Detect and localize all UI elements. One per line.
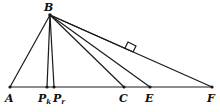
point-C [122, 85, 125, 88]
point-Pr [52, 85, 55, 88]
point-F [210, 85, 213, 88]
segment-BE [50, 15, 150, 87]
point-E [148, 85, 151, 88]
label-E: E [144, 92, 154, 105]
label-C: C [119, 92, 128, 105]
label-Pk: Pk [37, 92, 51, 106]
point-A [8, 85, 11, 88]
point-Pk [45, 85, 48, 88]
label-A: A [4, 92, 14, 105]
geometry-figure: B A Pk Pr C E F [0, 0, 220, 112]
segment-BC [50, 15, 124, 87]
segment-BA [10, 15, 50, 87]
label-B: B [43, 1, 53, 14]
diagram-canvas: B A Pk Pr C E F [0, 0, 220, 112]
segment-BPk [47, 15, 50, 87]
segment-BH [50, 15, 133, 52]
label-Pr: Pr [52, 92, 66, 106]
label-F: F [206, 92, 216, 105]
segment-BPr [50, 15, 54, 87]
